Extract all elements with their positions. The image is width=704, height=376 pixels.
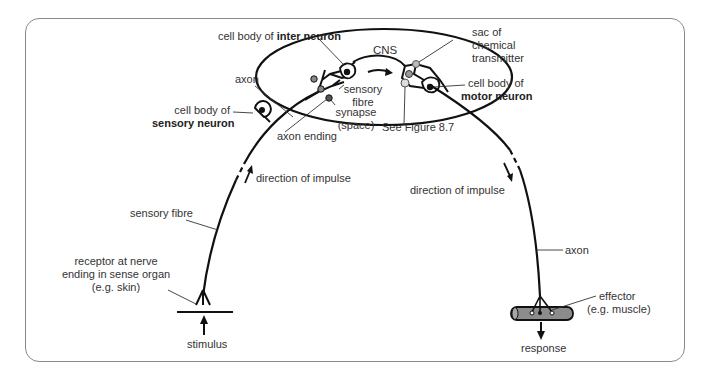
sensory-fibre-line: [203, 180, 236, 296]
label-bold-text: motor neuron: [461, 90, 533, 102]
label-cell-body-inter-neuron: cell body of inter neuron: [218, 30, 341, 43]
label-text: cell body of: [218, 30, 277, 42]
label-text: receptor at nerve: [74, 255, 157, 267]
motor-axon-dashes: [510, 150, 520, 170]
label-text: (e.g. skin): [92, 281, 140, 293]
label-stimulus: stimulus: [187, 338, 227, 351]
end-plate-2: [538, 311, 542, 315]
label-sensory-neuron-bold: sensory neuron: [152, 117, 235, 130]
label-text: (space): [338, 119, 375, 131]
label-motor-neuron-bold: motor neuron: [461, 90, 533, 103]
synapse-knob-2: [318, 86, 324, 92]
label-bold-text: inter neuron: [277, 30, 341, 42]
synapse-knob-1: [311, 76, 317, 82]
label-text: (e.g. muscle): [587, 303, 651, 315]
receptor-endings: [196, 290, 210, 305]
inter-neuron-axon: [353, 56, 405, 66]
label-synapse: synapse(space): [331, 106, 381, 132]
label-direction-impulse-right: direction of impulse: [410, 184, 505, 197]
label-effector: effector(e.g. muscle): [599, 290, 651, 316]
stimulus-arrow-head: [200, 315, 208, 324]
cns-arrow-head: [385, 68, 393, 76]
label-sensory-fibre: sensory fibre: [130, 207, 193, 220]
motor-axon-lower: [520, 170, 540, 296]
muscle-end: [512, 308, 518, 320]
direction-arrow-left-shaft: [245, 171, 250, 183]
sensory-axon-line: [244, 92, 318, 164]
sensory-fibre-dashes: [236, 164, 244, 180]
effector-muscle: [511, 307, 573, 320]
reflex-arc-diagram: [0, 0, 704, 376]
label-text: effector: [599, 290, 636, 302]
label-text: ending in sense organ: [62, 268, 170, 280]
label-axon-top: axon: [235, 73, 259, 86]
sac-chemical-transmitter: [413, 61, 420, 68]
label-text: chemical: [472, 39, 515, 51]
label-cell-body-motor-prefix: cell body of: [468, 77, 524, 90]
label-cell-body-sensory-prefix: cell body of: [160, 104, 230, 117]
label-cns: CNS: [373, 44, 397, 57]
sac-3: [401, 79, 409, 87]
label-receptor: receptor at nerveending in sense organ(e…: [60, 255, 172, 294]
end-plate-1: [530, 311, 534, 315]
label-text: sac of: [472, 26, 501, 38]
label-response: response: [521, 342, 566, 355]
inter-neuron-nucleus: [344, 69, 350, 75]
label-sac-chemical-transmitter: sac ofchemicaltransmitter: [472, 26, 524, 65]
leader-lines: [168, 38, 596, 310]
label-axon-ending: axon ending: [277, 130, 337, 143]
response-arrow-head: [537, 331, 545, 340]
sensory-nucleus: [259, 107, 265, 113]
label-text: synapse: [336, 106, 377, 118]
label-see-figure: See Figure 8.7: [382, 121, 454, 134]
sac-2: [406, 71, 413, 78]
direction-arrow-right-shaft: [504, 163, 510, 176]
end-plate-3: [550, 311, 554, 315]
label-direction-impulse-left: direction of impulse: [256, 172, 351, 185]
label-bold-text: sensory neuron: [152, 117, 235, 129]
label-text: sensory: [344, 83, 383, 95]
label-axon-right: axon: [565, 244, 589, 257]
label-text: transmitter: [472, 52, 524, 64]
